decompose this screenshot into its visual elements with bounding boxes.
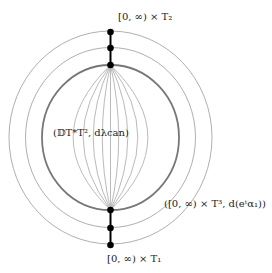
label-top-end: [0, ∞) × T₂ bbox=[118, 11, 172, 22]
point-dot bbox=[107, 225, 114, 232]
point-dot bbox=[107, 29, 114, 36]
point-dot bbox=[107, 242, 114, 249]
point-dot bbox=[107, 207, 114, 214]
point-dot bbox=[107, 45, 114, 52]
label-bottom-end: [0, ∞) × T₁ bbox=[107, 253, 161, 264]
label-disk-bundle: (𝔻T*T², dλcan) bbox=[53, 127, 129, 138]
diagram-canvas: [0, ∞) × T₂ (𝔻T*T², dλcan) ([0, ∞) × T³,… bbox=[0, 0, 272, 273]
label-symplectization: ([0, ∞) × T³, d(eᵗα₁)) bbox=[164, 198, 266, 209]
point-dot bbox=[107, 62, 114, 69]
